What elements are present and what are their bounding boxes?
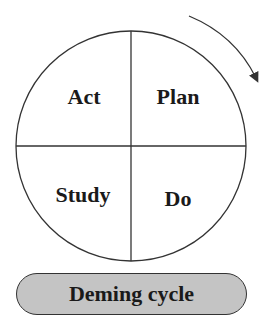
quadrant-label-do: Do (165, 186, 192, 211)
title-pill: Deming cycle (16, 273, 247, 315)
quadrant-label-plan: Plan (157, 84, 200, 109)
quadrant-label-study: Study (55, 182, 110, 207)
diagram-title: Deming cycle (69, 281, 194, 307)
quadrant-label-act: Act (68, 84, 102, 109)
